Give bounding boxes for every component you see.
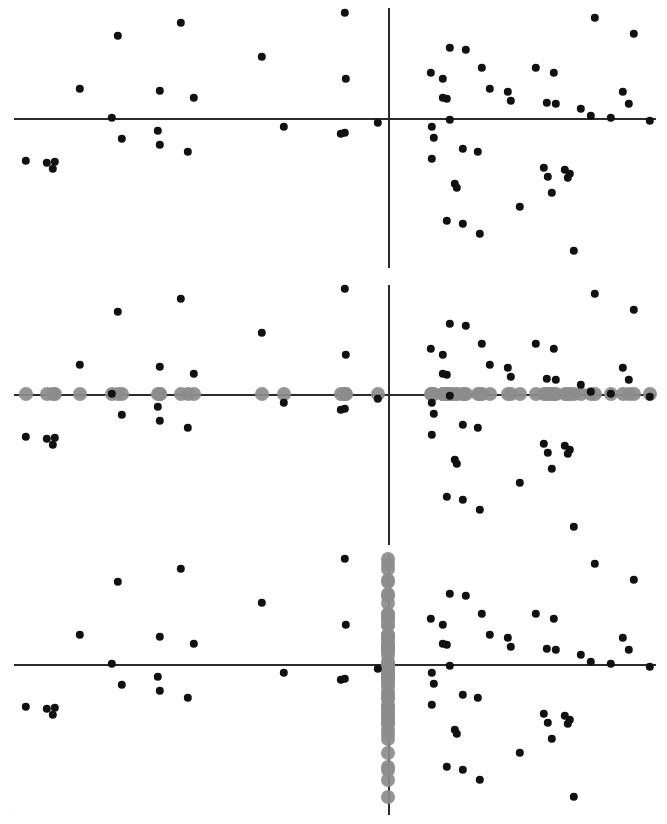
data-point bbox=[428, 399, 436, 407]
data-point bbox=[190, 640, 198, 648]
data-point bbox=[504, 364, 512, 372]
data-point bbox=[114, 32, 122, 40]
data-point bbox=[430, 410, 438, 418]
data-point bbox=[156, 87, 164, 95]
data-point bbox=[342, 351, 350, 359]
data-point bbox=[108, 114, 116, 122]
data-point bbox=[591, 560, 599, 568]
data-point bbox=[341, 405, 349, 413]
data-point bbox=[374, 119, 382, 127]
projection-dot bbox=[381, 557, 395, 571]
data-point bbox=[543, 99, 551, 107]
data-point bbox=[114, 578, 122, 586]
data-point bbox=[280, 123, 288, 131]
data-point bbox=[532, 610, 540, 618]
data-point bbox=[156, 417, 164, 425]
data-point bbox=[177, 19, 185, 27]
data-point bbox=[474, 148, 482, 156]
projection-dot bbox=[153, 387, 167, 401]
data-point bbox=[156, 141, 164, 149]
data-point bbox=[258, 599, 266, 607]
data-point bbox=[258, 329, 266, 337]
data-point bbox=[446, 590, 454, 598]
panel-raw-scatter bbox=[0, 0, 667, 278]
data-point bbox=[342, 621, 350, 629]
data-point bbox=[540, 440, 548, 448]
projection-dot bbox=[567, 387, 581, 401]
data-point bbox=[544, 173, 552, 181]
data-point bbox=[516, 203, 524, 211]
data-point bbox=[341, 9, 349, 17]
data-point bbox=[543, 645, 551, 653]
data-point bbox=[341, 555, 349, 563]
data-point bbox=[184, 694, 192, 702]
data-point bbox=[550, 345, 558, 353]
data-point bbox=[49, 165, 57, 173]
data-point bbox=[476, 230, 484, 238]
data-point bbox=[478, 610, 486, 618]
data-point bbox=[507, 643, 515, 651]
data-point bbox=[462, 322, 470, 330]
data-point bbox=[459, 496, 467, 504]
data-point bbox=[446, 662, 454, 670]
data-point bbox=[564, 450, 572, 458]
projection-dot bbox=[381, 773, 395, 787]
data-point bbox=[118, 135, 126, 143]
data-point bbox=[504, 88, 512, 96]
data-point bbox=[459, 691, 467, 699]
data-point bbox=[474, 694, 482, 702]
data-point bbox=[476, 506, 484, 514]
data-point bbox=[156, 363, 164, 371]
data-point bbox=[154, 673, 162, 681]
projection-dot bbox=[19, 387, 33, 401]
data-point bbox=[625, 646, 633, 654]
projection-dot bbox=[255, 387, 269, 401]
data-point bbox=[453, 460, 461, 468]
projection-dot bbox=[181, 387, 195, 401]
data-point bbox=[552, 646, 560, 654]
data-point bbox=[504, 634, 512, 642]
data-point bbox=[374, 395, 382, 403]
data-point bbox=[516, 749, 524, 757]
data-point bbox=[184, 424, 192, 432]
data-point bbox=[646, 117, 654, 125]
data-point bbox=[118, 411, 126, 419]
data-point bbox=[190, 370, 198, 378]
projection-dot bbox=[381, 790, 395, 804]
data-point bbox=[154, 403, 162, 411]
data-point bbox=[570, 247, 578, 255]
projection-dot bbox=[381, 573, 395, 587]
data-point bbox=[177, 565, 185, 573]
data-point bbox=[427, 69, 435, 77]
data-point bbox=[459, 220, 467, 228]
data-point bbox=[118, 681, 126, 689]
projection-dot bbox=[381, 732, 395, 746]
data-point bbox=[550, 69, 558, 77]
data-point bbox=[443, 493, 451, 501]
data-point bbox=[625, 100, 633, 108]
data-point bbox=[625, 376, 633, 384]
data-point bbox=[428, 431, 436, 439]
data-point bbox=[443, 371, 451, 379]
data-point bbox=[462, 592, 470, 600]
data-point bbox=[430, 134, 438, 142]
data-point bbox=[544, 719, 552, 727]
panel-x-projection bbox=[0, 277, 667, 555]
vertical-axis bbox=[388, 285, 390, 545]
data-point bbox=[459, 145, 467, 153]
data-point bbox=[427, 615, 435, 623]
data-point bbox=[552, 100, 560, 108]
data-point bbox=[76, 85, 84, 93]
data-point bbox=[443, 217, 451, 225]
data-point bbox=[507, 373, 515, 381]
data-point bbox=[428, 123, 436, 131]
data-point bbox=[486, 85, 494, 93]
data-point bbox=[190, 94, 198, 102]
data-point bbox=[476, 776, 484, 784]
data-point bbox=[156, 687, 164, 695]
data-point bbox=[474, 424, 482, 432]
projection-dot bbox=[381, 589, 395, 603]
data-point bbox=[646, 663, 654, 671]
data-point bbox=[478, 340, 486, 348]
data-point bbox=[591, 290, 599, 298]
